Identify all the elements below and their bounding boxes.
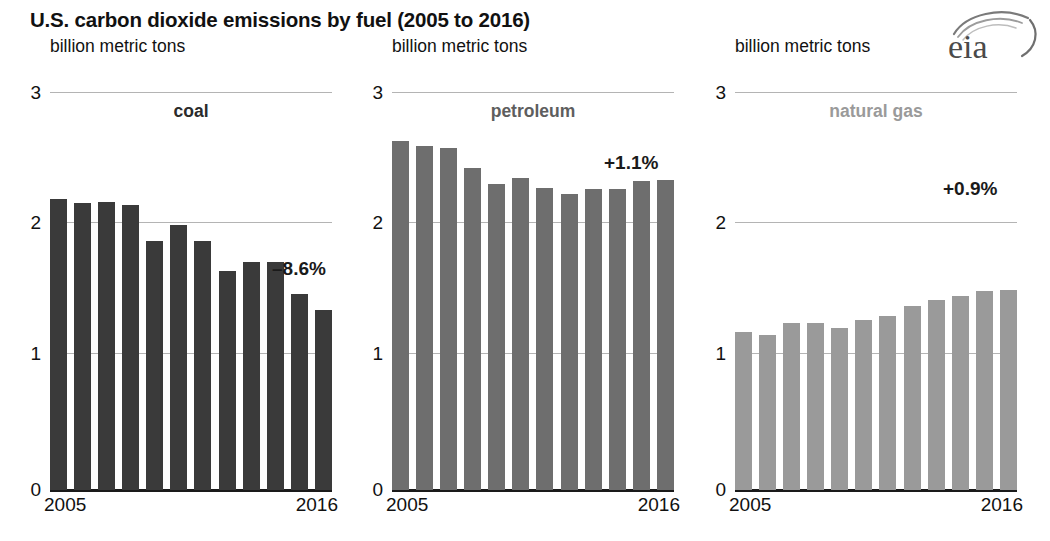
bar (536, 188, 553, 490)
xlabel-end-petroleum: 2016 (638, 494, 680, 516)
bar (759, 335, 776, 490)
ytick-1-natural-gas: 1 (715, 344, 726, 363)
bar (561, 194, 578, 490)
bar (512, 178, 529, 490)
xlabel-end-coal: 2016 (296, 494, 338, 516)
bar (98, 202, 115, 490)
panel-petroleum: billion metric tons petroleum 3 2 1 0 +1… (392, 0, 674, 541)
bar (464, 168, 481, 490)
panel-natural-gas: billion metric tons natural gas 3 2 1 0 … (735, 0, 1017, 541)
ytick-2-natural-gas: 2 (715, 213, 726, 232)
bar (633, 181, 650, 490)
ytick-2-coal: 2 (30, 213, 41, 232)
xlabel-end-natural-gas: 2016 (981, 494, 1023, 516)
ytick-0-petroleum: 0 (372, 480, 383, 499)
panel-units-coal: billion metric tons (50, 36, 185, 57)
x-axis-labels-natural-gas: 2005 2016 (729, 494, 1023, 516)
xlabel-start-natural-gas: 2005 (729, 494, 771, 516)
bar-group-natural-gas (735, 92, 1017, 490)
x-axis-labels-coal: 2005 2016 (44, 494, 338, 516)
bar (194, 241, 211, 490)
panel-units-petroleum: billion metric tons (392, 36, 527, 57)
bar (657, 180, 674, 490)
change-label-natural-gas: +0.9% (943, 178, 997, 200)
ytick-3-petroleum: 3 (372, 83, 383, 102)
change-label-petroleum: +1.1% (604, 152, 658, 174)
bar (1000, 290, 1017, 490)
ytick-2-petroleum: 2 (372, 213, 383, 232)
bar (146, 241, 163, 490)
bar (783, 323, 800, 490)
bar (807, 323, 824, 490)
bar (735, 332, 752, 490)
change-label-coal: –8.6% (272, 258, 326, 280)
bar (879, 316, 896, 490)
ytick-0-coal: 0 (30, 480, 41, 499)
bar (392, 141, 409, 490)
bar (122, 205, 139, 490)
panel-coal: billion metric tons coal 3 2 1 0 –8.6% 2… (50, 0, 332, 541)
bar (416, 146, 433, 490)
bar (315, 310, 332, 490)
xlabel-start-petroleum: 2005 (386, 494, 428, 516)
bar (219, 271, 236, 490)
ytick-3-coal: 3 (30, 83, 41, 102)
plot-area-natural-gas: 3 2 1 0 (735, 92, 1017, 490)
bar (50, 199, 67, 490)
bar (928, 300, 945, 490)
ytick-0-natural-gas: 0 (715, 480, 726, 499)
bar (952, 296, 969, 490)
ytick-1-petroleum: 1 (372, 344, 383, 363)
ytick-3-natural-gas: 3 (715, 83, 726, 102)
bar (440, 148, 457, 490)
x-axis-labels-petroleum: 2005 2016 (386, 494, 680, 516)
bar (267, 262, 284, 490)
plot-area-coal: 3 2 1 0 (50, 92, 332, 490)
bar (904, 306, 921, 490)
bar (831, 328, 848, 490)
bar (291, 294, 308, 490)
bar (585, 189, 602, 490)
bar-group-coal (50, 92, 332, 490)
ytick-1-coal: 1 (30, 344, 41, 363)
bar (170, 225, 187, 490)
bar (74, 203, 91, 490)
bar (609, 189, 626, 490)
panel-units-natural-gas: billion metric tons (735, 36, 870, 57)
bar (243, 262, 260, 490)
bar (855, 320, 872, 490)
xlabel-start-coal: 2005 (44, 494, 86, 516)
bar (488, 184, 505, 490)
bar (976, 291, 993, 490)
